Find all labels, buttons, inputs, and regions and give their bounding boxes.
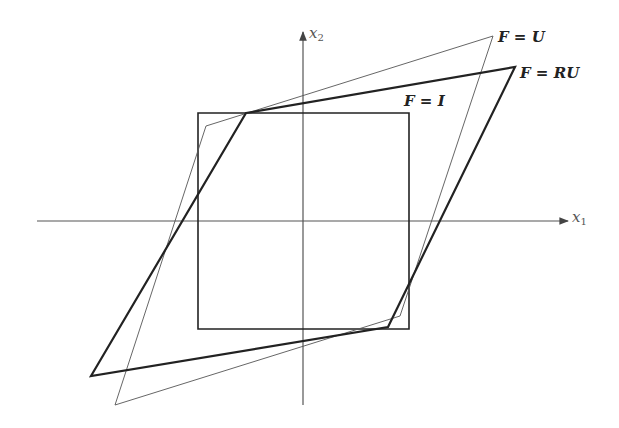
x1-label-sub: 1: [580, 216, 586, 227]
x1-axis-label: x1: [572, 210, 587, 227]
label-f-u: F = U: [498, 30, 545, 45]
x2-label-sub: 2: [317, 32, 323, 43]
x2-axis-label: x2: [309, 26, 324, 43]
deformation-diagram: x2 x1 F = U F = RU F = I: [0, 0, 619, 428]
label-f-ru: F = RU: [520, 66, 579, 81]
label-f-i: F = I: [404, 94, 445, 109]
